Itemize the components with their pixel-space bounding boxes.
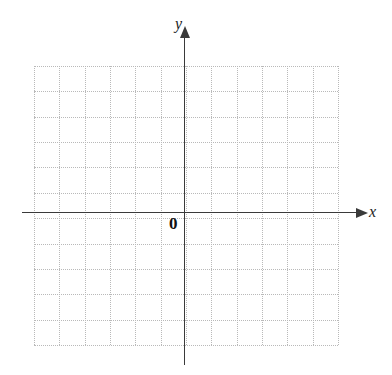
grid-line-vertical bbox=[262, 66, 263, 345]
grid-line-vertical bbox=[161, 66, 162, 345]
grid-line-vertical bbox=[110, 66, 111, 345]
grid-line-vertical bbox=[313, 66, 314, 345]
grid-line-vertical bbox=[338, 66, 339, 345]
x-axis-label: x bbox=[369, 204, 376, 220]
grid-line-horizontal bbox=[34, 167, 338, 168]
x-axis-line bbox=[22, 212, 356, 213]
grid-line-horizontal bbox=[34, 218, 338, 219]
grid-line-horizontal bbox=[34, 66, 338, 67]
y-axis-label: y bbox=[175, 16, 182, 32]
origin-label: 0 bbox=[169, 215, 178, 232]
grid-line-vertical bbox=[34, 66, 35, 345]
grid-line-horizontal bbox=[34, 117, 338, 118]
grid-line-horizontal bbox=[34, 294, 338, 295]
grid-line-horizontal bbox=[34, 193, 338, 194]
dotted-grid bbox=[34, 66, 338, 345]
grid-line-vertical bbox=[85, 66, 86, 345]
coordinate-grid-figure: x y 0 bbox=[0, 0, 392, 375]
grid-line-horizontal bbox=[34, 142, 338, 143]
grid-line-vertical bbox=[211, 66, 212, 345]
grid-line-horizontal bbox=[34, 91, 338, 92]
grid-line-horizontal bbox=[34, 345, 338, 346]
grid-line-vertical bbox=[186, 66, 187, 345]
grid-line-vertical bbox=[237, 66, 238, 345]
grid-line-horizontal bbox=[34, 269, 338, 270]
grid-line-vertical bbox=[287, 66, 288, 345]
x-axis-arrow-icon bbox=[356, 208, 368, 218]
y-axis-line bbox=[184, 38, 185, 365]
grid-line-horizontal bbox=[34, 244, 338, 245]
grid-line-vertical bbox=[59, 66, 60, 345]
grid-line-horizontal bbox=[34, 320, 338, 321]
grid-line-vertical bbox=[135, 66, 136, 345]
